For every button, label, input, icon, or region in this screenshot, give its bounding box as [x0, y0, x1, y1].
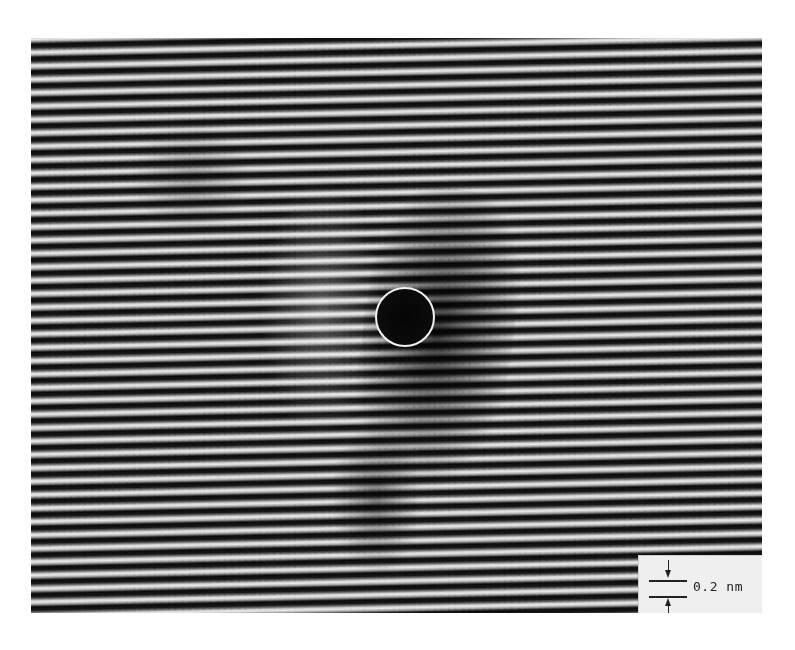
- scale-bar-label: 0.2 nm: [693, 579, 743, 594]
- defect-marker-circle: [375, 287, 435, 347]
- scale-line-top: [649, 580, 687, 582]
- lattice-micrograph: 0.2 nm: [31, 38, 762, 613]
- scale-bar: 0.2 nm: [638, 555, 762, 613]
